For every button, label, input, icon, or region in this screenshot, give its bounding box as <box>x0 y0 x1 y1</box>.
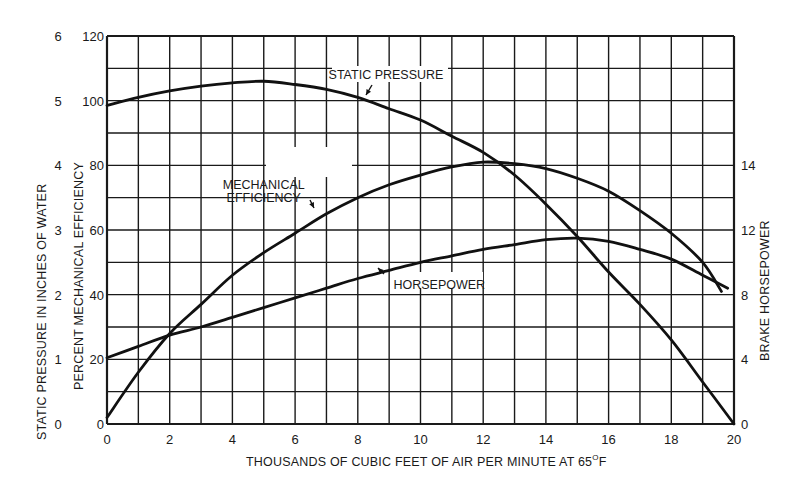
static-pressure-tick-label: 5 <box>54 94 61 109</box>
x-tick-label: 12 <box>476 432 490 447</box>
annotation-label: HORSEPOWER <box>393 278 485 292</box>
efficiency-tick-label: 120 <box>82 29 104 44</box>
annotation-label: MECHANICAL <box>223 178 305 192</box>
plot-grid <box>107 36 734 424</box>
x-axis-ticks: 02468101214161820 <box>103 432 741 447</box>
x-tick-label: 0 <box>103 432 110 447</box>
y-axis-label-efficiency: PERCENT MECHANICAL EFFICIENCY <box>72 161 86 390</box>
static-pressure-tick-label: 1 <box>54 352 61 367</box>
efficiency-tick-label: 100 <box>82 94 104 109</box>
x-tick-label: 4 <box>229 432 236 447</box>
efficiency-tick-label: 40 <box>90 288 104 303</box>
static-pressure-tick-label: 6 <box>54 29 61 44</box>
annotation-label: EFFICIENCY <box>227 191 302 205</box>
efficiency-tick-label: 80 <box>90 158 104 173</box>
horsepower-tick-label: 8 <box>741 288 748 303</box>
x-tick-label: 14 <box>539 432 553 447</box>
annotation-label: STATIC PRESSURE <box>329 68 444 82</box>
x-tick-label: 20 <box>727 432 741 447</box>
y-axis-label-static-pressure: STATIC PRESSURE IN INCHES OF WATER <box>35 184 49 440</box>
x-axis-label: THOUSANDS OF CUBIC FEET OF AIR PER MINUT… <box>246 453 607 469</box>
fan-performance-chart: 02468101214161820 020406080100120 012345… <box>0 0 801 496</box>
horsepower-tick-label: 4 <box>741 352 748 367</box>
x-tick-label: 6 <box>291 432 298 447</box>
x-tick-label: 16 <box>601 432 615 447</box>
efficiency-tick-label: 0 <box>97 417 104 432</box>
x-tick-label: 8 <box>354 432 361 447</box>
x-tick-label: 18 <box>664 432 678 447</box>
static-pressure-tick-label: 4 <box>54 158 61 173</box>
horsepower-tick-label: 12 <box>741 223 755 238</box>
annotation-background <box>266 147 352 177</box>
static-pressure-tick-label: 3 <box>54 223 61 238</box>
x-tick-label: 10 <box>413 432 427 447</box>
horsepower-tick-label: 14 <box>741 158 755 173</box>
static-pressure-tick-label: 0 <box>54 417 61 432</box>
y-axis-static-pressure-ticks: 0123456 <box>54 29 61 432</box>
static-pressure-tick-label: 2 <box>54 288 61 303</box>
efficiency-tick-label: 20 <box>90 352 104 367</box>
horsepower-tick-label: 0 <box>741 417 748 432</box>
x-tick-label: 2 <box>166 432 173 447</box>
y-axis-horsepower-ticks: 0481214 <box>741 158 755 432</box>
y-axis-label-brake-horsepower: BRAKE HORSEPOWER <box>758 220 772 361</box>
efficiency-tick-label: 60 <box>90 223 104 238</box>
